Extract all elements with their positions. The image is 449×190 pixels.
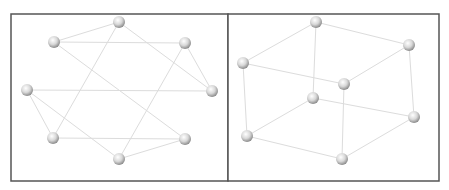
- graph-diagram-canvas: [0, 0, 449, 190]
- panels-group: [11, 14, 439, 181]
- panel-cube-layout: [228, 14, 439, 181]
- graph-node-left: [21, 84, 33, 96]
- graph-node-right-bottom: [408, 111, 420, 123]
- graph-node-front-top: [338, 78, 350, 90]
- graph-node-inner: [307, 92, 319, 104]
- graph-node-right: [206, 85, 218, 97]
- graph-node-bottom: [113, 153, 125, 165]
- graph-node-top-back: [310, 16, 322, 28]
- graph-node-top: [113, 16, 125, 28]
- graph-node-lower-right: [179, 133, 191, 145]
- graph-node-lower-left: [47, 132, 59, 144]
- graph-node-left-top: [237, 57, 249, 69]
- graph-node-front-bottom: [336, 153, 348, 165]
- graph-node-upper-left: [48, 36, 60, 48]
- graph-node-right-back: [403, 39, 415, 51]
- panel-frame: [228, 14, 439, 181]
- graph-node-upper-right: [179, 37, 191, 49]
- panel-circular-layout: [11, 14, 228, 181]
- graph-node-left-bottom: [241, 130, 253, 142]
